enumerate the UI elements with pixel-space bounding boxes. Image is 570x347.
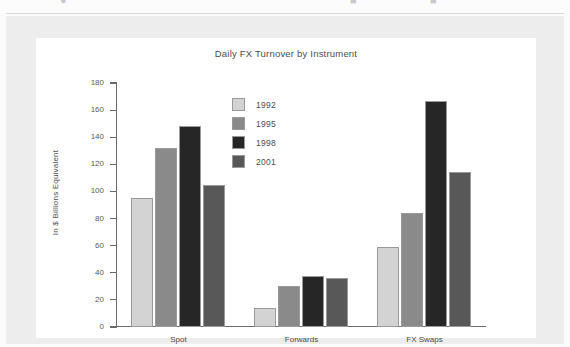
bar-1995-spot[interactable] <box>155 148 177 327</box>
top-glyph-1: ● <box>60 0 67 6</box>
chart-figure: Daily FX Turnover by Instrument 02040608… <box>36 38 536 338</box>
x-category-label: Spot <box>119 335 239 344</box>
page-top-partial-row: ● ■ ■ <box>0 0 570 13</box>
chart-legend: 1992199519982001 <box>232 95 276 171</box>
legend-item-1992[interactable]: 1992 <box>232 95 276 114</box>
plot-area: 020406080100120140160180 In $ Billions E… <box>36 38 536 338</box>
bar-set <box>377 83 471 327</box>
y-tick-label-60: 60 <box>64 241 104 250</box>
y-tick-40 <box>110 272 117 273</box>
legend-item-2001[interactable]: 2001 <box>232 152 276 171</box>
bar-2001-forwards[interactable] <box>326 278 348 327</box>
legend-item-1998[interactable]: 1998 <box>232 133 276 152</box>
bar-1995-forwards[interactable] <box>278 286 300 327</box>
y-tick-140 <box>110 137 117 138</box>
y-tick-60 <box>110 245 117 246</box>
legend-label: 1995 <box>256 119 276 129</box>
y-tick-180 <box>110 82 117 83</box>
x-category-label: Forwards <box>242 335 362 344</box>
y-tick-120 <box>110 164 117 165</box>
header-divider <box>6 13 564 14</box>
legend-label: 1992 <box>256 100 276 110</box>
bar-group: Spot <box>117 83 240 327</box>
x-category-label: FX Swaps <box>365 335 485 344</box>
bar-1998-spot[interactable] <box>179 126 201 327</box>
y-tick-label-120: 120 <box>64 159 104 168</box>
legend-swatch-icon <box>232 136 245 149</box>
bar-2001-spot[interactable] <box>203 185 225 327</box>
y-tick-label-40: 40 <box>64 268 104 277</box>
y-tick-100 <box>110 191 117 192</box>
bar-group: FX Swaps <box>363 83 486 327</box>
y-tick-20 <box>110 299 117 300</box>
legend-label: 1998 <box>256 138 276 148</box>
y-tick-label-20: 20 <box>64 295 104 304</box>
page-frame: Daily FX Turnover by Instrument 02040608… <box>6 16 564 344</box>
bar-1995-fx-swaps[interactable] <box>401 213 423 327</box>
bar-set <box>131 83 225 327</box>
y-tick-label-0: 0 <box>64 322 104 331</box>
legend-label: 2001 <box>256 157 276 167</box>
bar-1998-forwards[interactable] <box>302 276 324 328</box>
legend-swatch-icon <box>232 155 245 168</box>
legend-swatch-icon <box>232 98 245 111</box>
bar-1992-fx-swaps[interactable] <box>377 247 399 327</box>
y-tick-label-80: 80 <box>64 214 104 223</box>
y-tick-80 <box>110 218 117 219</box>
y-tick-label-100: 100 <box>64 186 104 195</box>
bar-groups: SpotForwardsFX Swaps <box>117 83 486 327</box>
y-tick-label-160: 160 <box>64 105 104 114</box>
y-tick-160 <box>110 110 117 111</box>
legend-swatch-icon <box>232 117 245 130</box>
top-glyph-2: ■ <box>350 0 357 6</box>
bar-1992-spot[interactable] <box>131 198 153 327</box>
bar-1992-forwards[interactable] <box>254 308 276 327</box>
bar-2001-fx-swaps[interactable] <box>449 172 471 327</box>
y-tick-label-140: 140 <box>64 132 104 141</box>
y-tick-0 <box>110 326 117 327</box>
y-tick-label-180: 180 <box>64 78 104 87</box>
top-glyph-3: ■ <box>430 0 437 6</box>
y-axis-label: In $ Billions Equivalent <box>51 128 60 258</box>
bar-1998-fx-swaps[interactable] <box>425 101 447 327</box>
legend-item-1995[interactable]: 1995 <box>232 114 276 133</box>
